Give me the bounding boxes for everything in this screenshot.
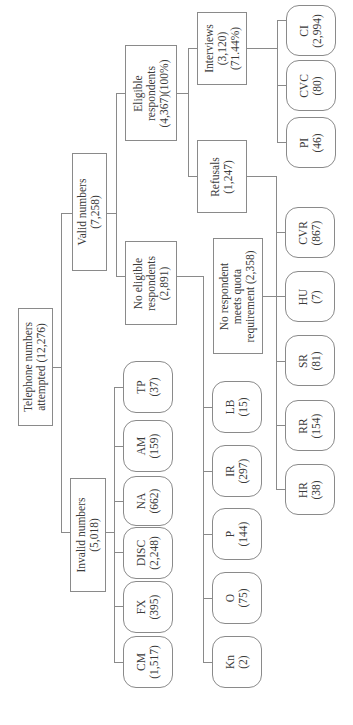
node-cvr: CVR(867)	[285, 207, 335, 258]
node-count: (46)	[311, 133, 324, 152]
node-code: DISC	[135, 536, 148, 570]
node-count: (297)	[237, 459, 250, 484]
node-label: (5,018)	[88, 497, 101, 572]
connector-disc	[114, 552, 123, 553]
node-code: NA	[135, 489, 148, 514]
connector-root	[52, 367, 61, 368]
node-code: TP	[135, 377, 148, 396]
connector-tp	[114, 387, 123, 388]
node-label: attempted (12,276)	[36, 322, 49, 412]
node-code: CI	[298, 14, 311, 48]
connector-refusals-out	[247, 176, 276, 177]
connector-pi	[277, 142, 286, 143]
connector-p	[203, 534, 212, 535]
node-rr: RR(154)	[285, 400, 335, 451]
connector-interviews-out	[247, 48, 277, 49]
connector-kn	[203, 662, 212, 663]
node-count: (662)	[148, 489, 161, 514]
node-label: (3,120)	[216, 24, 229, 73]
connector-valid-out	[107, 213, 116, 214]
node-count: (7)	[310, 288, 323, 305]
connector-no-eligible-out	[177, 276, 203, 277]
node-code: HU	[297, 288, 310, 305]
connector-lb	[203, 407, 212, 408]
node-no-eligible-respondents: No eligiblerespondents(2,891)	[125, 241, 177, 325]
node-code: HR	[297, 480, 310, 499]
connector-no-eligible	[116, 276, 125, 277]
connector-invalid-spine	[114, 387, 115, 662]
node-label: (71.44%)	[229, 24, 242, 73]
node-code: CM	[135, 645, 148, 679]
node-label: Interviews	[203, 24, 216, 73]
node-valid-numbers: Valid numbers(7,258)	[72, 153, 107, 271]
node-label: (1,247)	[222, 157, 235, 197]
node-fx: FX(395)	[123, 581, 173, 633]
connector-interviews-spine	[277, 20, 278, 143]
node-label: Telephone numbers	[23, 322, 36, 412]
node-telephone-numbers-attempted: Telephone numbersattempted (12,276)	[18, 308, 53, 426]
node-sr: SR(81)	[285, 335, 335, 386]
node-label: respondents	[145, 59, 158, 127]
node-count: (395)	[148, 595, 161, 620]
connector-o	[203, 598, 212, 599]
node-count: (159)	[148, 434, 161, 459]
connector-ci	[277, 20, 286, 21]
node-count: (80)	[311, 74, 324, 98]
node-cvc: CVC(80)	[286, 60, 336, 111]
connector-valid	[61, 213, 72, 214]
node-label: Eligible	[132, 59, 145, 127]
node-count: (2)	[237, 655, 250, 669]
connector-refusals-spine	[276, 176, 277, 489]
node-code: IR	[224, 459, 237, 484]
node-na: NA(662)	[123, 476, 173, 526]
node-label: Valid numbers	[77, 179, 90, 246]
connector-eligible	[116, 93, 125, 94]
node-label: requirement (2,358)	[245, 250, 258, 342]
node-count: (154)	[310, 413, 323, 438]
node-count: (38)	[310, 480, 323, 499]
connector-cvr	[276, 232, 285, 233]
node-count: (81)	[310, 351, 323, 370]
node-o: O(75)	[212, 572, 262, 624]
node-refusals: Refusals(1,247)	[197, 140, 247, 213]
node-hu: HU(7)	[285, 271, 335, 322]
connector-rr	[276, 425, 285, 426]
node-label: (4,367)(100%)	[158, 59, 171, 127]
node-count: (15)	[237, 397, 250, 416]
node-code: PI	[298, 133, 311, 152]
connector-hu	[263, 296, 285, 297]
connector-no-eligible-spine	[203, 276, 204, 663]
node-code: CVR	[297, 220, 310, 245]
node-tp: TP(37)	[123, 361, 173, 413]
node-code: P	[224, 522, 237, 547]
node-code: CVC	[298, 74, 311, 98]
connector-interviews	[188, 48, 197, 49]
node-am: AM(159)	[123, 420, 173, 472]
connector-cm	[114, 662, 123, 663]
node-label: meets quota	[232, 250, 245, 342]
connector-invalid	[61, 532, 70, 533]
connector-hr	[276, 489, 285, 490]
node-code: SR	[297, 351, 310, 370]
connector-ir	[203, 471, 212, 472]
node-code: LB	[224, 397, 237, 416]
node-label: (2,891)	[158, 256, 171, 311]
node-lb: LB(15)	[212, 381, 262, 433]
node-code: RR	[297, 413, 310, 438]
connector-cvc	[277, 85, 286, 86]
node-cm: CM(1,517)	[123, 636, 173, 688]
node-label: (7,258)	[90, 179, 103, 246]
node-label: No eligible	[132, 256, 145, 311]
node-hr: HR(38)	[285, 464, 335, 515]
node-code: Kn	[224, 655, 237, 669]
connector-fx	[114, 606, 123, 607]
node-count: (1,517)	[148, 645, 161, 679]
connector-invalid-out	[105, 532, 114, 533]
node-label: respondents	[145, 256, 158, 311]
node-code: FX	[135, 595, 148, 620]
node-label: Invalid numbers	[75, 497, 88, 572]
node-kn: Kn(2)	[212, 636, 262, 688]
node-count: (75)	[237, 588, 250, 607]
node-invalid-numbers: Invalid numbers(5,018)	[70, 478, 106, 592]
connector-sr	[276, 361, 285, 362]
